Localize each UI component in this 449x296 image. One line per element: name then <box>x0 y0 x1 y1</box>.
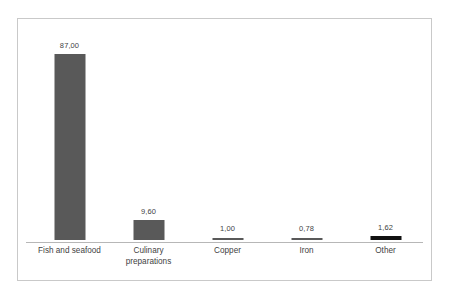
bar-iron[interactable] <box>291 238 322 240</box>
bar-value-other: 1,62 <box>378 223 393 232</box>
category-label-copper: Copper <box>188 245 267 256</box>
category-label-fish-and-seafood: Fish and seafood <box>30 245 109 256</box>
bar-group-copper: 1,00 Copper <box>188 17 267 280</box>
bar-group-other: 1,62 Other <box>346 17 425 280</box>
category-label-other: Other <box>346 245 425 256</box>
bar-other[interactable] <box>370 236 401 240</box>
bar-value-iron: 0,78 <box>299 224 314 233</box>
bar-column: 1,00 <box>188 17 267 240</box>
bar-column: 1,62 <box>346 17 425 240</box>
bar-culinary-preparations[interactable] <box>133 220 164 240</box>
category-label-iron: Iron <box>267 245 346 256</box>
bar-column: 0,78 <box>267 17 346 240</box>
chart-figure: 87,00 Fish and seafood 9,60 Culinary pre… <box>0 0 449 296</box>
bar-fish-and-seafood[interactable] <box>54 54 85 240</box>
plot-area: 87,00 Fish and seafood 9,60 Culinary pre… <box>18 19 431 280</box>
bar-column: 87,00 <box>30 17 109 240</box>
bar-value-culinary-preparations: 9,60 <box>141 207 156 216</box>
bar-group-iron: 0,78 Iron <box>267 17 346 280</box>
bar-value-copper: 1,00 <box>220 224 235 233</box>
category-label-culinary-preparations: Culinary preparations <box>109 245 188 267</box>
bar-value-fish-and-seafood: 87,00 <box>60 41 79 50</box>
bar-group-fish-and-seafood: 87,00 Fish and seafood <box>30 17 109 280</box>
chart-frame: 87,00 Fish and seafood 9,60 Culinary pre… <box>17 18 432 281</box>
bar-group-culinary-preparations: 9,60 Culinary preparations <box>109 17 188 280</box>
bar-copper[interactable] <box>212 238 243 241</box>
bar-column: 9,60 <box>109 17 188 240</box>
